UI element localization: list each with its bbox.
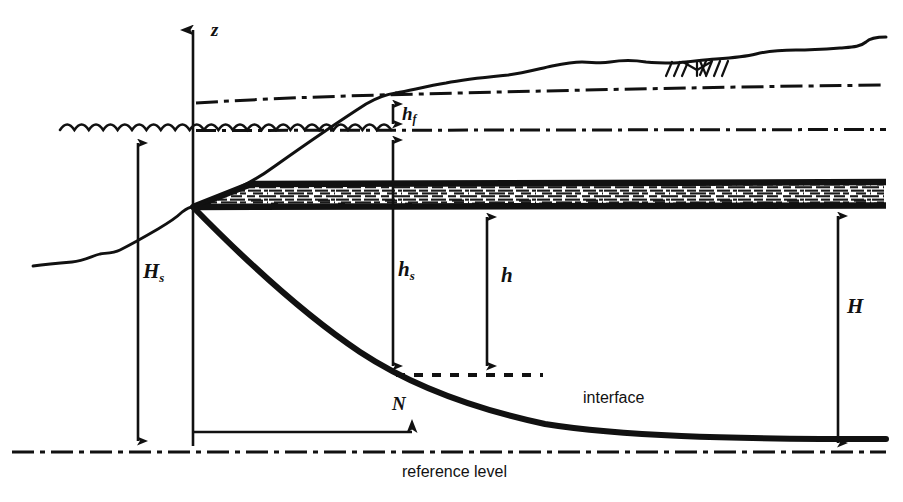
- label-n-axis: N: [392, 393, 406, 415]
- label-H-base: H: [847, 294, 863, 318]
- figure-canvas: Hs hf hs h H z N interface reference lev…: [0, 0, 903, 502]
- label-Hs-base: H: [143, 259, 159, 283]
- label-hs-base: h: [398, 257, 410, 281]
- piezometric-head-line: [196, 85, 886, 103]
- label-H: H: [847, 294, 863, 319]
- aquifer-band: [190, 178, 890, 210]
- sea-bed-line: [33, 207, 193, 266]
- interface-label: interface: [583, 389, 644, 407]
- label-h-base: h: [501, 263, 513, 287]
- label-Hs: Hs: [143, 259, 164, 286]
- label-hf-subscript: f: [413, 113, 417, 126]
- aquifer-bottom-boundary: [193, 206, 886, 208]
- label-z-axis: z: [211, 19, 218, 41]
- label-Hs-subscript: s: [159, 270, 164, 285]
- reference-level-label: reference level: [402, 463, 507, 481]
- label-hs: hs: [398, 257, 415, 284]
- coastal-aquifer-diagram: [0, 0, 903, 502]
- label-hs-subscript: s: [410, 268, 415, 283]
- label-hf-base: h: [402, 103, 413, 124]
- label-h: h: [501, 263, 513, 288]
- label-hf: hf: [402, 103, 417, 127]
- sea-level-line: [196, 130, 886, 131]
- interface-curve: [193, 207, 886, 439]
